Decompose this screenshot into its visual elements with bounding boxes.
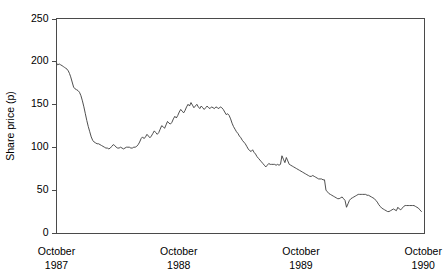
y-axis-tick-labels: 050100150200250 [31,12,49,238]
y-tick-label: 0 [43,226,49,238]
y-tick-label: 250 [31,12,49,24]
share-price-chart: 050100150200250 October1987October1988Oc… [0,0,447,279]
y-tick-label: 200 [31,54,49,66]
chart-canvas: 050100150200250 October1987October1988Oc… [0,0,447,279]
y-tick-label: 150 [31,97,49,109]
x-tick-label-month: October [38,245,76,257]
x-tick-label-month: October [405,245,443,257]
x-axis-tick-labels: October1987October1988October1989October… [38,245,443,271]
x-tick-label-month: October [282,245,320,257]
y-axis-ticks [52,20,57,234]
y-tick-label: 50 [37,183,49,195]
x-tick-label-month: October [160,245,198,257]
plot-frame [57,19,425,234]
x-tick-label-year: 1987 [45,259,69,271]
plot-border [57,19,425,234]
x-tick-label-year: 1988 [167,259,191,271]
x-tick-label-year: 1989 [289,259,313,271]
y-tick-label: 100 [31,140,49,152]
share-price-line [57,63,422,211]
y-axis-title: Share price (p) [4,91,16,160]
x-tick-label-year: 1990 [412,259,436,271]
